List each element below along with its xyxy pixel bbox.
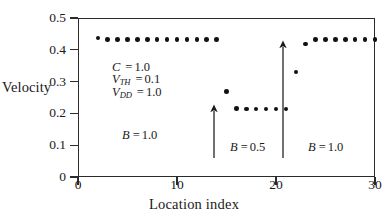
y-axis-tick-label: 0.3: [22, 75, 66, 89]
region-label-middle-symbol: B: [230, 140, 238, 154]
arrow-left-boundary-arrow-icon: [208, 104, 220, 158]
y-axis-tick-label: 0.1: [22, 138, 66, 152]
data-point: [234, 106, 239, 111]
data-point: [343, 37, 348, 42]
velocity-vs-location-index-chart: Velocity 00.10.20.30.40.5 0102030 C=1.0 …: [0, 0, 388, 217]
y-axis-tick-label: 0.5: [22, 11, 66, 25]
y-axis-tick: [70, 113, 78, 114]
y-axis-tick: [70, 81, 78, 82]
data-point: [135, 37, 140, 42]
region-label-right-operator: =: [316, 140, 328, 154]
region-label-left-operator: =: [130, 128, 142, 142]
data-point: [145, 37, 150, 42]
data-point: [204, 37, 209, 42]
annotation-supply-voltage-value: 1.0: [146, 85, 162, 99]
y-axis-tick: [70, 17, 78, 18]
annotation-supply-voltage-symbol: V: [112, 85, 120, 99]
annotation-supply-voltage-subscript: DD: [120, 89, 132, 99]
region-label-left-symbol: B: [122, 128, 130, 142]
data-point: [373, 37, 378, 42]
x-axis-tick-label: 10: [157, 178, 197, 192]
y-axis-tick-label: 0.2: [22, 106, 66, 120]
region-label-left: B=1.0: [122, 128, 157, 143]
data-point: [244, 107, 249, 112]
region-label-left-value: 1.0: [142, 128, 158, 142]
parameter-annotation-block: C=1.0 VTH=0.1 VDD=1.0: [112, 61, 162, 98]
y-axis-tick: [70, 145, 78, 146]
region-label-middle: B=0.5: [230, 140, 265, 155]
data-point: [175, 37, 180, 42]
data-point: [125, 37, 130, 42]
region-label-right: B=1.0: [308, 140, 343, 155]
data-point: [195, 37, 200, 42]
data-point: [115, 37, 120, 42]
x-axis-title: Location index: [0, 196, 388, 213]
x-axis-tick-label: 30: [355, 178, 388, 192]
y-axis-tick: [70, 49, 78, 50]
data-point: [224, 89, 229, 94]
arrow-right-boundary-arrow-icon: [277, 40, 289, 158]
data-point: [214, 37, 219, 42]
y-axis-tick-label: 0.4: [22, 43, 66, 57]
region-label-right-symbol: B: [308, 140, 316, 154]
data-point: [333, 37, 338, 42]
data-point: [105, 37, 110, 42]
data-point: [313, 37, 318, 42]
x-axis-tick-label: 0: [58, 178, 98, 192]
data-point: [323, 37, 328, 42]
region-label-middle-value: 0.5: [250, 140, 266, 154]
region-label-right-value: 1.0: [328, 140, 344, 154]
data-point: [185, 37, 190, 42]
annotation-supply-voltage-operator: =: [132, 85, 146, 99]
annotation-supply-voltage: VDD=1.0: [112, 86, 162, 98]
region-label-middle-operator: =: [238, 140, 250, 154]
x-axis-tick-label: 20: [256, 178, 296, 192]
